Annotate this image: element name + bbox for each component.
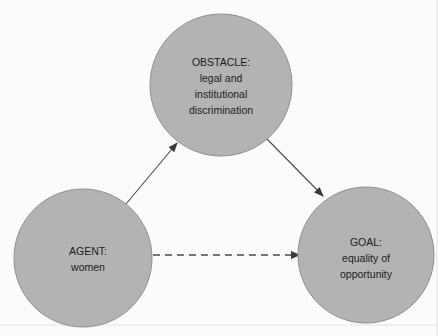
- diagram-svg: OBSTACLE: legal and institutional discri…: [0, 0, 438, 336]
- node-goal[interactable]: GOAL: equality of opportunity: [298, 187, 434, 323]
- obstacle-label-line-4: discrimination: [189, 104, 253, 116]
- edge-obstacle-to-goal: [267, 139, 323, 196]
- agent-label-line-2: women: [70, 261, 105, 273]
- agent-circle[interactable]: [14, 189, 152, 327]
- node-obstacle[interactable]: OBSTACLE: legal and institutional discri…: [150, 14, 292, 156]
- obstacle-label-line-3: institutional: [195, 88, 248, 100]
- goal-label-line-1: GOAL:: [350, 236, 382, 248]
- edge-agent-to-obstacle: [126, 143, 177, 204]
- node-agent[interactable]: AGENT: women: [14, 189, 152, 327]
- agent-label-line-1: AGENT:: [69, 245, 107, 257]
- obstacle-circle[interactable]: [150, 14, 292, 156]
- arrow-obstacle-to-goal: [267, 139, 323, 196]
- arrow-agent-to-obstacle: [126, 143, 177, 204]
- obstacle-label-line-1: OBSTACLE:: [192, 56, 250, 68]
- goal-label-line-3: opportunity: [340, 268, 393, 280]
- obstacle-label-line-2: legal and: [200, 72, 243, 84]
- diagram-canvas: OBSTACLE: legal and institutional discri…: [0, 0, 438, 336]
- goal-label-line-2: equality of: [342, 252, 390, 264]
